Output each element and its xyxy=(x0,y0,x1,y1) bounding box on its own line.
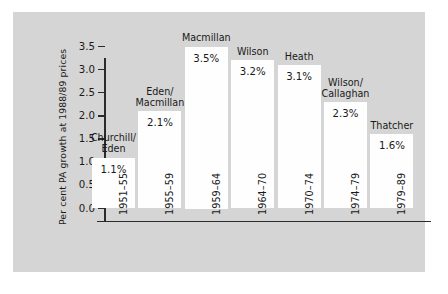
x-axis-tick-label: 1955–59 xyxy=(164,172,175,214)
x-axis-tick-label: 1951–55 xyxy=(118,172,129,214)
bar-column: 2.3%Wilson/Callaghan1974–79 xyxy=(324,12,367,272)
bar-group: 1.1%Churchill/Eden1951–552.1%Eden/Macmil… xyxy=(13,12,448,294)
x-axis-tick-label: 1979–89 xyxy=(396,172,407,214)
bar-column: 1.1%Churchill/Eden1951–55 xyxy=(92,12,135,272)
bar-value-label: 2.1% xyxy=(138,117,181,128)
bar-value-label: 1.6% xyxy=(370,140,413,151)
bar-column: 3.1%Heath1970–74 xyxy=(278,12,321,272)
bar-column: 2.1%Eden/Macmillan1955–59 xyxy=(138,12,181,272)
bar-series-label-line: Thatcher xyxy=(356,120,427,131)
x-axis-tick-label: 1959–64 xyxy=(211,172,222,214)
x-axis-tick-label: 1964–70 xyxy=(257,172,268,214)
x-axis-tick-label: 1970–74 xyxy=(304,172,315,214)
chart-figure: Per cent PA growth at 1988/89 prices 3.5… xyxy=(0,0,448,294)
bar-value-label: 3.2% xyxy=(231,66,274,77)
plot-panel: Per cent PA growth at 1988/89 prices 3.5… xyxy=(13,12,425,272)
bar-value-label: 2.3% xyxy=(324,108,367,119)
x-axis-tick-label: 1974–79 xyxy=(350,172,361,214)
bar-series-label: Thatcher xyxy=(356,120,427,131)
bar-column: 1.6%Thatcher1979–89 xyxy=(370,12,413,272)
